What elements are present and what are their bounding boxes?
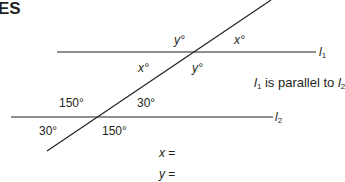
angle-upper-top-right: x° <box>234 34 245 46</box>
angle-lower-top-right: 30° <box>137 97 155 109</box>
answer-y: y = <box>159 168 175 180</box>
transversal-line <box>47 0 271 151</box>
angle-upper-bottom-right: y° <box>192 62 203 74</box>
angle-lower-top-left: 150° <box>59 97 84 109</box>
line-l2-label: l2 <box>275 111 282 127</box>
angle-upper-top-left: y° <box>174 34 185 46</box>
angle-lower-bottom-left: 30° <box>39 125 57 137</box>
answer-x: x = <box>159 147 175 159</box>
line-l1-label: l1 <box>319 46 326 62</box>
angle-upper-bottom-left: x° <box>138 62 149 74</box>
parallel-note: l1 is parallel to l2 <box>254 76 345 93</box>
angle-lower-bottom-right: 150° <box>102 125 127 137</box>
